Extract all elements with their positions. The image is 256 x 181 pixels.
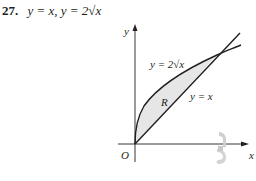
line-y-equals-x [135, 33, 240, 144]
curve-label-linear: y = x [190, 90, 213, 102]
x-axis-label: x [249, 149, 254, 161]
y-axis-label: y [124, 25, 129, 37]
rotation-arrow-icon [214, 130, 228, 166]
region-label: R [161, 96, 168, 108]
origin-label: O [121, 149, 129, 161]
x-axis-arrow-icon [241, 142, 249, 147]
curve-label-sqrt: y = 2√x [150, 58, 184, 70]
y-axis-arrow-icon [133, 24, 138, 31]
